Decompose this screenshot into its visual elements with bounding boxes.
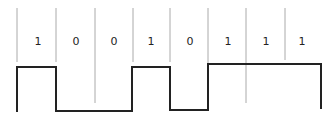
bit-label: 0: [73, 35, 80, 48]
bit-label: 1: [225, 35, 232, 48]
bit-label: 1: [35, 35, 42, 48]
bit-label: 0: [111, 35, 118, 48]
nrz-signal-diagram: 1 0 0 1 0 1 1 1: [0, 0, 336, 116]
bit-label: 0: [187, 35, 194, 48]
gridlines: [17, 8, 285, 103]
bit-label: 1: [148, 35, 155, 48]
bit-label: 1: [263, 35, 270, 48]
signal-waveform: [17, 64, 321, 112]
bit-label: 1: [299, 35, 306, 48]
